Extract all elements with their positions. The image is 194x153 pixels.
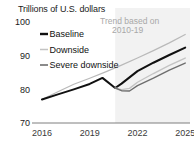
- x-tick-label: 2022: [127, 128, 147, 138]
- y-axis-tick-labels: 708090100: [15, 17, 30, 128]
- x-tick-label: 2019: [80, 128, 100, 138]
- y-tick-label: 90: [20, 51, 30, 61]
- chart-plot: 708090100 2016201920222025 Trend based o…: [0, 0, 194, 153]
- y-tick-label: 70: [20, 118, 30, 128]
- legend-label: Severe downside: [50, 60, 119, 70]
- x-axis-tick-labels: 2016201920222025: [32, 128, 194, 138]
- x-tick-label: 2016: [32, 128, 52, 138]
- chart-legend: BaselineDownsideSevere downside: [40, 29, 119, 70]
- trend-annotation-line2: 2010-19: [112, 25, 143, 35]
- legend-label: Baseline: [50, 29, 85, 39]
- y-tick-label: 80: [20, 85, 30, 95]
- x-tick-label: 2025: [175, 128, 194, 138]
- chart-container: Trillions of U.S. dollars 708090100 2016…: [0, 0, 194, 153]
- legend-label: Downside: [50, 45, 90, 55]
- y-tick-label: 100: [15, 17, 30, 27]
